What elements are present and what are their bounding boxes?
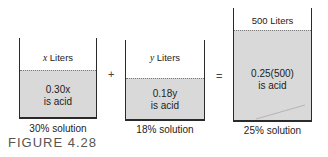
beaker-volume-label: 500 Liters	[234, 15, 311, 26]
caption-30-percent: 30% solution	[19, 123, 97, 134]
volume-variable: 500	[252, 15, 268, 26]
figure-label: FIGURE 4.28	[8, 135, 97, 150]
acid-amount-label: 0.30x is acid	[20, 84, 96, 108]
equals-sign: =	[216, 70, 222, 82]
acid-text: is acid	[20, 96, 96, 108]
volume-unit: Liters	[50, 52, 73, 63]
caption-25-percent: 25% solution	[233, 125, 312, 136]
beaker-30-percent: x Liters 0.30x is acid	[19, 38, 97, 119]
acid-amount-label: 0.18y is acid	[126, 88, 204, 112]
liquid-fill: 0.18y is acid	[126, 78, 204, 119]
acid-amount: 0.18y	[126, 88, 204, 100]
acid-amount: 0.30x	[20, 84, 96, 96]
volume-variable: y	[150, 53, 154, 63]
beaker-volume-label: x Liters	[20, 52, 96, 63]
caption-18-percent: 18% solution	[125, 124, 205, 135]
acid-text: is acid	[126, 100, 204, 112]
plus-sign: +	[108, 68, 114, 80]
liquid-fill: 0.25(500) is acid	[234, 30, 311, 120]
liquid-fill: 0.30x is acid	[20, 70, 96, 117]
volume-unit: Liters	[270, 15, 293, 26]
reflection-streak	[234, 31, 313, 120]
beaker-25-percent: 500 Liters 0.25(500) is acid	[233, 8, 312, 122]
volume-variable: x	[43, 53, 47, 63]
beaker-volume-label: y Liters	[126, 52, 204, 63]
beaker-18-percent: y Liters 0.18y is acid	[125, 40, 205, 121]
volume-unit: Liters	[157, 52, 180, 63]
